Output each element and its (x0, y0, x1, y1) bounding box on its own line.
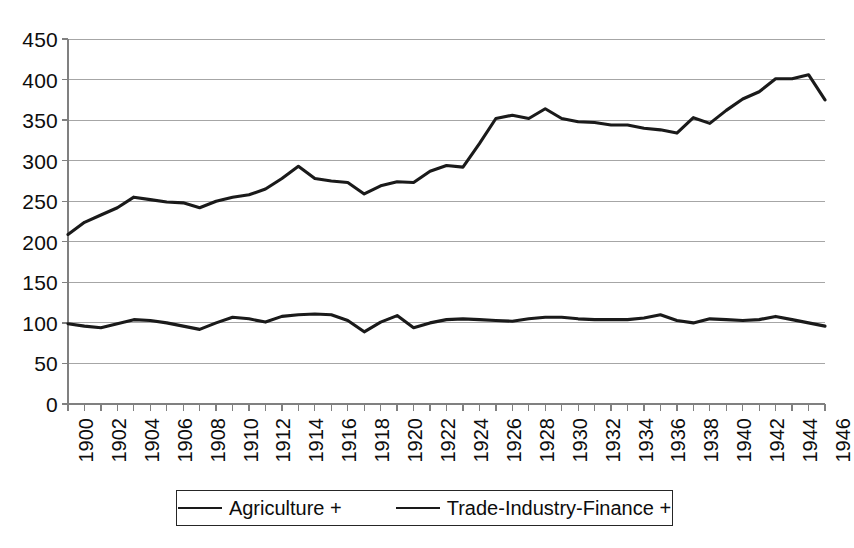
x-axis-tick-label: 1912 (273, 418, 293, 463)
x-axis-tick-label: 1946 (833, 418, 853, 463)
x-axis-tick-label: 1938 (701, 418, 721, 463)
x-axis-tick-label: 1940 (734, 418, 754, 463)
legend-label: Agriculture + (229, 498, 342, 518)
legend-item-trade-industry-finance[interactable]: Trade-Industry-Finance + (396, 498, 671, 518)
x-axis-tick-label: 1928 (537, 418, 557, 463)
legend-line-icon (178, 507, 222, 509)
x-axis-tick-label: 1944 (800, 418, 820, 463)
x-axis-tick-label: 1906 (175, 418, 195, 463)
x-axis-tick-label: 1922 (438, 418, 458, 463)
legend-item-agriculture[interactable]: Agriculture + (178, 498, 342, 518)
x-axis-tick-label: 1914 (306, 418, 326, 463)
x-axis-tick-label: 1930 (570, 418, 590, 463)
x-axis-tick-label: 1934 (636, 418, 656, 463)
x-axis-tick-labels: 1900190219041906190819101912191419161918… (0, 404, 843, 494)
chart-legend: Agriculture + Trade-Industry-Finance + (176, 490, 673, 526)
x-axis-tick-label: 1942 (767, 418, 787, 463)
axis-lines (62, 39, 825, 404)
x-axis-tick-label: 1908 (208, 418, 228, 463)
x-axis-tick-label: 1924 (471, 418, 491, 463)
x-axis-tick-label: 1932 (603, 418, 623, 463)
x-axis-tick-label: 1902 (109, 418, 129, 463)
x-axis-tick-label: 1904 (142, 418, 162, 463)
x-axis-tick-label: 1916 (339, 418, 359, 463)
x-axis-tick-label: 1936 (668, 418, 688, 463)
x-axis-tick-label: 1918 (372, 418, 392, 463)
x-axis-tick-label: 1900 (76, 418, 96, 463)
legend-label: Trade-Industry-Finance + (447, 498, 671, 518)
x-axis-tick-label: 1926 (504, 418, 524, 463)
series-lines (68, 75, 825, 332)
x-axis-tick-label: 1910 (241, 418, 261, 463)
x-axis-tick-label: 1920 (405, 418, 425, 463)
legend-line-icon (396, 507, 440, 509)
